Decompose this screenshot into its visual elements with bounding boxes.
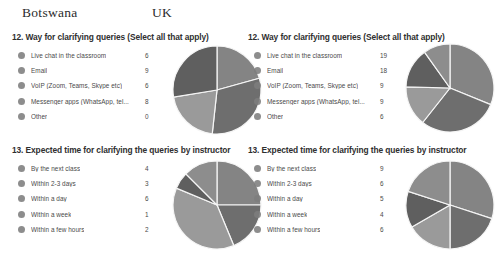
legend-label: Within a week bbox=[31, 211, 71, 218]
pie-graphic bbox=[404, 159, 496, 251]
legend-swatch-icon bbox=[18, 226, 25, 233]
legend-label: Within a week bbox=[267, 211, 307, 218]
legend-swatch-icon bbox=[18, 211, 25, 218]
legend-label: Within 2-3 days bbox=[31, 180, 76, 187]
legend-item: Within 2-3 days6 bbox=[254, 176, 404, 191]
question-title: 12. Way for clarifying queries (Select a… bbox=[248, 32, 445, 42]
legend-label: Messenger apps (WhatsApp, tel... bbox=[31, 98, 129, 105]
legend-label: Within a few hours bbox=[31, 226, 84, 233]
legend-value: 4 bbox=[145, 165, 149, 172]
legend-item: Live chat in the classroom19 bbox=[254, 48, 404, 63]
panel-uk-q12: 12. Way for clarifying queries (Select a… bbox=[244, 32, 484, 140]
legend-label: VoIP (Zoom, Teams, Skype etc) bbox=[31, 82, 122, 89]
pie-chart bbox=[404, 159, 496, 251]
legend-item: Other0 bbox=[18, 109, 168, 124]
legend-item: Live chat in the classroom6 bbox=[18, 48, 168, 63]
legend-label: Messenger apps (WhatsApp, tel... bbox=[267, 98, 365, 105]
legend-swatch-icon bbox=[18, 165, 25, 172]
legend-item: Within a week1 bbox=[18, 207, 168, 222]
legend-label: Within 2-3 days bbox=[267, 180, 312, 187]
legend-swatch-icon bbox=[254, 82, 261, 89]
legend-item: VoIP (Zoom, Teams, Skype etc)9 bbox=[254, 78, 404, 93]
legend-label: Email bbox=[267, 67, 283, 74]
legend-swatch-icon bbox=[254, 195, 261, 202]
legend-item: Within a day5 bbox=[254, 191, 404, 206]
question-title: 13. Expected time for clarifying the que… bbox=[12, 145, 231, 155]
legend-label: Live chat in the classroom bbox=[267, 52, 342, 59]
legend-value: 18 bbox=[380, 67, 387, 74]
legend-label: By the next class bbox=[31, 165, 80, 172]
legend-swatch-icon bbox=[254, 98, 261, 105]
legend-item: Within a few hours2 bbox=[18, 222, 168, 237]
pie-graphic bbox=[404, 42, 496, 134]
pie-chart bbox=[404, 42, 496, 134]
legend-value: 6 bbox=[380, 180, 384, 187]
legend-item: By the next class4 bbox=[18, 161, 168, 176]
legend-swatch-icon bbox=[254, 180, 261, 187]
legend-swatch-icon bbox=[18, 113, 25, 120]
legend-value: 9 bbox=[380, 82, 384, 89]
legend-value: 6 bbox=[145, 52, 149, 59]
legend-item: By the next class9 bbox=[254, 161, 404, 176]
legend-label: Other bbox=[267, 113, 283, 120]
legend-label: Other bbox=[31, 113, 47, 120]
legend-swatch-icon bbox=[18, 52, 25, 59]
legend-value: 19 bbox=[380, 52, 387, 59]
legend-item: Within a day6 bbox=[18, 191, 168, 206]
legend-value: 8 bbox=[145, 98, 149, 105]
legend-item: Other6 bbox=[254, 109, 404, 124]
legend: By the next class9Within 2-3 days6Within… bbox=[254, 161, 404, 237]
legend-item: Within 2-3 days3 bbox=[18, 176, 168, 191]
legend-value: 4 bbox=[380, 211, 384, 218]
legend-swatch-icon bbox=[18, 180, 25, 187]
legend-label: Within a day bbox=[267, 195, 303, 202]
legend-value: 6 bbox=[380, 113, 384, 120]
legend-label: By the next class bbox=[267, 165, 316, 172]
legend-value: 9 bbox=[145, 67, 149, 74]
country-label-botswana: Botswana bbox=[22, 5, 78, 21]
legend-item: Messenger apps (WhatsApp, tel...8 bbox=[18, 94, 168, 109]
legend-value: 9 bbox=[380, 98, 384, 105]
panel-uk-q13: 13. Expected time for clarifying the que… bbox=[244, 145, 484, 253]
country-label-uk: UK bbox=[152, 5, 172, 21]
legend-swatch-icon bbox=[254, 113, 261, 120]
legend-value: 6 bbox=[145, 195, 149, 202]
legend: Live chat in the classroom19Email18VoIP … bbox=[254, 48, 404, 124]
legend-swatch-icon bbox=[18, 82, 25, 89]
legend-item: VoIP (Zoom, Teams, Skype etc)6 bbox=[18, 78, 168, 93]
legend-value: 6 bbox=[145, 82, 149, 89]
legend-swatch-icon bbox=[18, 98, 25, 105]
legend-swatch-icon bbox=[254, 52, 261, 59]
legend-item: Within a few hours6 bbox=[254, 222, 404, 237]
legend-item: Email9 bbox=[18, 63, 168, 78]
legend: Live chat in the classroom6Email9VoIP (Z… bbox=[18, 48, 168, 124]
legend-label: VoIP (Zoom, Teams, Skype etc) bbox=[267, 82, 358, 89]
question-title: 12. Way for clarifying queries (Select a… bbox=[12, 32, 209, 42]
panel-botswana-q12: 12. Way for clarifying queries (Select a… bbox=[8, 32, 244, 140]
panel-botswana-q13: 13. Expected time for clarifying the que… bbox=[8, 145, 244, 253]
pie-slice bbox=[173, 46, 217, 97]
legend-swatch-icon bbox=[254, 211, 261, 218]
legend-swatch-icon bbox=[18, 195, 25, 202]
legend-value: 9 bbox=[380, 165, 384, 172]
legend-swatch-icon bbox=[18, 67, 25, 74]
legend-swatch-icon bbox=[254, 67, 261, 74]
legend-swatch-icon bbox=[254, 165, 261, 172]
legend-value: 2 bbox=[145, 226, 149, 233]
legend-item: Within a week4 bbox=[254, 207, 404, 222]
legend-label: Email bbox=[31, 67, 47, 74]
legend: By the next class4Within 2-3 days3Within… bbox=[18, 161, 168, 237]
question-title: 13. Expected time for clarifying the que… bbox=[248, 145, 467, 155]
legend-label: Within a day bbox=[31, 195, 67, 202]
legend-value: 1 bbox=[145, 211, 149, 218]
legend-value: 0 bbox=[145, 113, 149, 120]
legend-value: 3 bbox=[145, 180, 149, 187]
legend-value: 6 bbox=[380, 226, 384, 233]
legend-item: Email18 bbox=[254, 63, 404, 78]
legend-swatch-icon bbox=[254, 226, 261, 233]
legend-label: Live chat in the classroom bbox=[31, 52, 106, 59]
legend-value: 5 bbox=[380, 195, 384, 202]
legend-item: Messenger apps (WhatsApp, tel...9 bbox=[254, 94, 404, 109]
legend-label: Within a few hours bbox=[267, 226, 320, 233]
